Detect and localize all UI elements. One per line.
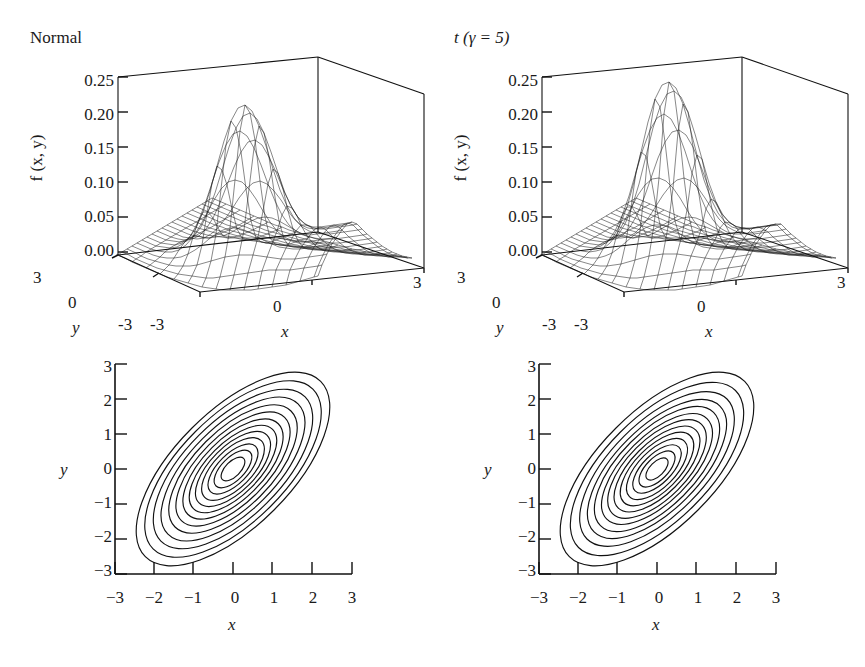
panel-t-contour: 3 2 1 0 −1 −2 −3 y −3 −2 −1 0 1 2 3 x [432,350,865,640]
surface-plot-normal [0,0,432,350]
surface-plot-t [432,0,865,350]
panel-t-3d: t (γ = 5) 0.25 0.20 0.15 0.10 0.05 0.00 … [432,0,865,350]
contour-plot-normal [0,350,432,640]
panel-normal-3d: Normal 0.25 0.20 0.15 0.10 0.05 0.00 f (… [0,0,432,350]
contour-plot-t [432,350,865,640]
panel-normal-contour: 3 2 1 0 −1 −2 −3 y −3 −2 −1 0 1 2 3 x [0,350,432,640]
